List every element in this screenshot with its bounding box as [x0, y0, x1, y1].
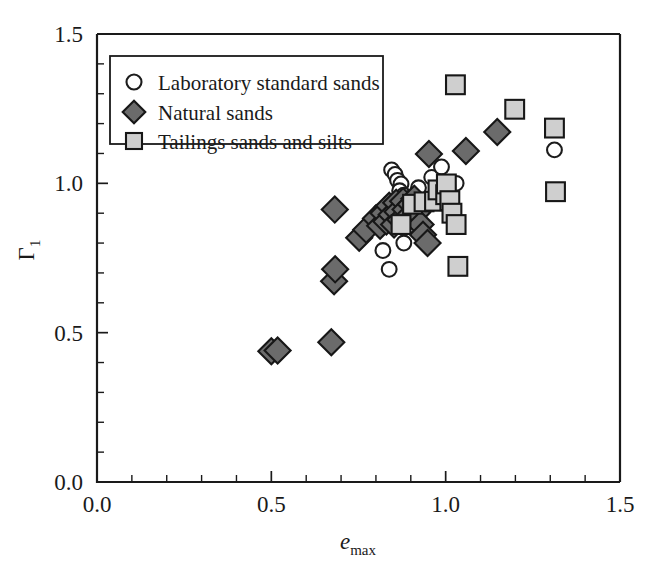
data-point-circle [382, 262, 397, 277]
y-tick-label: 1.5 [54, 22, 83, 47]
x-tick-label: 1.5 [606, 492, 635, 517]
y-axis-title: Γ1 [14, 240, 43, 261]
x-axis-title-sub: max [350, 542, 376, 558]
data-point-square [546, 182, 565, 201]
x-axis-title-base: e [340, 529, 350, 554]
legend-label-0: Laboratory standard sands [158, 71, 380, 95]
legend-label-1: Natural sands [158, 101, 273, 125]
legend-item-laboratory-standard-sands[interactable]: Laboratory standard sands [127, 71, 380, 95]
legend-label-2: Tailings sands and silts [158, 130, 352, 154]
legend: Laboratory standard sands Natural sands … [110, 56, 383, 154]
plot-svg: 0.00.51.01.50.00.51.01.5 emax Γ1 Laborat… [0, 0, 663, 576]
data-point-square [545, 119, 564, 138]
square-marker-icon [126, 133, 142, 149]
data-point-circle [547, 142, 562, 157]
data-point-diamond [322, 197, 348, 223]
data-point-circle [396, 236, 411, 251]
series-diamond [258, 119, 510, 364]
y-axis-title-sub: 1 [27, 240, 43, 248]
legend-item-tailings-sands-and-silts[interactable]: Tailings sands and silts [126, 130, 352, 154]
y-tick-label: 0.0 [54, 470, 83, 495]
data-point-diamond [453, 138, 479, 164]
data-point-diamond [484, 119, 510, 145]
y-tick-label: 0.5 [54, 321, 83, 346]
x-tick-label: 0.0 [83, 492, 112, 517]
data-point-square [448, 257, 467, 276]
data-point-square [446, 75, 465, 94]
x-tick-label: 0.5 [257, 492, 286, 517]
x-axis-title: emax [340, 529, 377, 558]
data-point-square [505, 100, 524, 119]
circle-marker-icon [127, 75, 142, 90]
scatter-plot-figure: 0.00.51.01.50.00.51.01.5 emax Γ1 Laborat… [0, 0, 663, 576]
data-point-square [447, 215, 466, 234]
x-tick-label: 1.0 [431, 492, 460, 517]
data-point-circle [376, 243, 391, 258]
data-point-square [392, 215, 411, 234]
data-point-circle [434, 160, 449, 175]
y-axis-title-base: Γ [14, 247, 39, 260]
y-tick-label: 1.0 [54, 171, 83, 196]
data-point-diamond [318, 329, 344, 355]
